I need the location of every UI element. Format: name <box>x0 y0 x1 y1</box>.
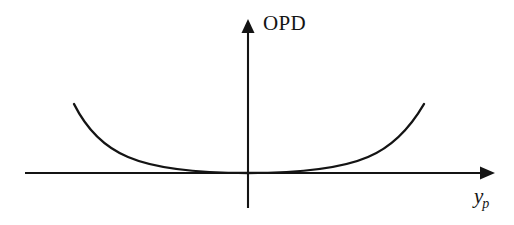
right-arrow-icon <box>480 167 495 180</box>
up-arrow-icon <box>242 19 255 33</box>
x-axis-label: yp <box>474 186 489 211</box>
y-axis-label: OPD <box>263 13 306 34</box>
x-axis-label-subscript: p <box>482 196 489 211</box>
plot-canvas <box>0 0 514 225</box>
figure-container: OPD yp <box>0 0 514 225</box>
